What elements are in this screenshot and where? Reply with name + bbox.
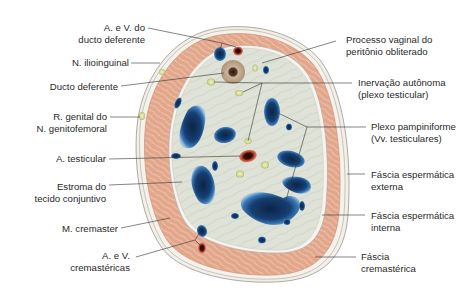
label-line: Inervação autônoma [358,77,445,89]
label-line: (Vv. testiculares) [371,133,456,145]
label-a-v-ducto-deferente: A. e V. do ducto deferente [78,22,145,45]
label-line: ducto deferente [78,34,145,46]
label-line: tecido conjuntivo [35,193,106,205]
label-line: Fáscia [361,251,416,263]
label-line: Plexo pampiniforme [371,121,456,133]
label-fascia-espermatica-externa: Fáscia espermática externa [371,169,454,192]
label-n-ilioinguinal: N. ilioinguinal [72,57,129,69]
label-line: Ducto deferente [50,81,118,93]
ductus-deferens [221,60,245,84]
label-line: (plexo testicular) [358,89,445,101]
label-ducto-deferente: Ducto deferente [50,81,118,93]
label-r-genital-n-genitofemoral: R. genital do N. genitofemoral [37,111,107,134]
label-line: A. testicular [56,153,106,165]
label-line: interna [371,222,454,234]
label-line: externa [371,181,454,193]
label-plexo-pampiniforme: Plexo pampiniforme (Vv. testiculares) [371,121,456,144]
label-line: Processo vaginal do [346,34,432,46]
label-a-v-cremastericas: A. e V. cremastéricas [70,250,130,273]
label-a-testicular: A. testicular [56,153,106,165]
label-inervacao-autonoma: Inervação autônoma (plexo testicular) [358,77,445,100]
label-line: cremastérica [361,263,416,275]
label-line: M. cremaster [62,223,118,235]
label-line: N. ilioinguinal [72,57,129,69]
label-line: R. genital do [37,111,107,123]
label-line: Fáscia espermática [371,210,454,222]
label-processo-vaginal: Processo vaginal do peritônio obliterado [346,34,432,57]
label-line: Estroma do [35,181,106,193]
label-m-cremaster: M. cremaster [62,223,118,235]
label-line: N. genitofemoral [37,123,107,135]
label-line: A. e V. do [78,22,145,34]
label-line: cremastéricas [70,262,130,274]
label-line: Fáscia espermática [371,169,454,181]
label-estroma-tecido-conjuntivo: Estroma do tecido conjuntivo [35,181,106,204]
label-fascia-cremasterica: Fáscia cremastérica [361,251,416,274]
spermatic-cord-diagram: A. e V. do ducto deferente N. ilioinguin… [0,0,476,294]
label-line: A. e V. [70,250,130,262]
label-line: peritônio obliterado [346,46,432,58]
label-fascia-espermatica-interna: Fáscia espermática interna [371,210,454,233]
